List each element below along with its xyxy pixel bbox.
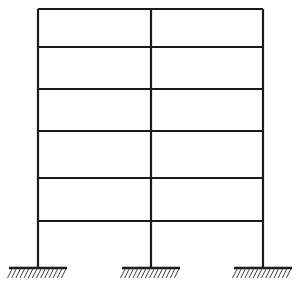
structural-frame-diagram bbox=[0, 0, 297, 293]
frame-drawing-canvas bbox=[0, 0, 297, 293]
diagram-background bbox=[0, 0, 297, 293]
